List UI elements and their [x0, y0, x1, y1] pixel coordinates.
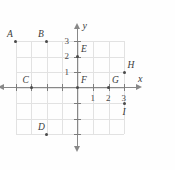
grid-line-horizontal	[16, 103, 125, 104]
grid-line-horizontal	[16, 72, 125, 73]
point-marker-h	[123, 71, 126, 74]
grid-line-horizontal	[16, 134, 125, 135]
point-marker-d	[45, 133, 48, 136]
point-marker-i	[123, 102, 126, 105]
x-axis-tick	[124, 84, 125, 91]
y-tick-label: 1	[65, 68, 70, 77]
y-axis-tick	[74, 134, 81, 135]
y-axis-tick	[74, 119, 81, 120]
x-axis-tick	[62, 84, 63, 91]
x-axis-line	[4, 87, 137, 89]
x-tick-label: 2	[106, 94, 111, 103]
x-axis-arrow-left	[0, 84, 4, 90]
x-axis-tick	[47, 84, 48, 91]
point-marker-e	[76, 55, 79, 58]
point-marker-c	[30, 86, 33, 89]
coordinate-plane: 123123 ABCDEFGHI x y	[0, 0, 175, 170]
point-label-d: D	[38, 123, 45, 133]
x-axis-tick	[93, 84, 94, 91]
y-tick-label: 2	[65, 52, 70, 61]
point-label-g: G	[112, 76, 119, 86]
y-axis-arrow-up	[74, 23, 80, 29]
point-label-a: A	[7, 30, 13, 40]
grid-line-horizontal	[16, 41, 125, 42]
y-tick-label: 3	[65, 37, 70, 46]
point-label-i: I	[123, 108, 126, 118]
point-label-e: E	[81, 45, 87, 55]
y-axis-tick	[74, 41, 81, 42]
y-axis-tick	[74, 103, 81, 104]
point-marker-g	[107, 86, 110, 89]
y-axis-label: y	[83, 21, 87, 31]
x-axis-arrow-right	[136, 84, 142, 90]
point-marker-f	[76, 86, 79, 89]
point-label-f: F	[81, 76, 87, 86]
x-axis-label: x	[138, 74, 142, 84]
point-marker-b	[45, 40, 48, 43]
x-axis-tick	[16, 84, 17, 91]
grid-line-horizontal	[16, 57, 125, 58]
point-label-c: C	[23, 76, 29, 86]
x-tick-label: 1	[91, 94, 96, 103]
point-label-b: B	[38, 30, 44, 40]
grid-line-horizontal	[16, 119, 125, 120]
y-axis-tick	[74, 72, 81, 73]
point-marker-a	[14, 40, 17, 43]
point-label-h: H	[128, 61, 135, 71]
y-axis-arrow-down	[74, 146, 80, 152]
